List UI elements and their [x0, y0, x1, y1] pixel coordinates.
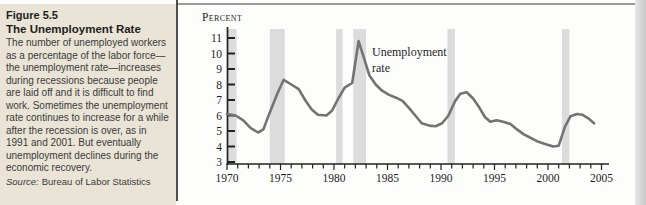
recession-band	[562, 29, 569, 164]
recession-band	[353, 29, 366, 164]
figure-title: The Unemployment Rate	[6, 22, 169, 36]
series-annotation: Unemployment	[372, 45, 447, 59]
figure-number: Figure 5.5	[6, 9, 169, 22]
figure-5-5: Figure 5.5 The Unemployment Rate The num…	[0, 0, 646, 205]
x-tick-label: 1995	[483, 172, 506, 184]
source-text: Bureau of Labor Statistics	[42, 176, 151, 187]
series-annotation: rate	[372, 61, 390, 75]
y-tick-label: 10	[211, 48, 223, 60]
recession-band	[447, 29, 454, 164]
y-tick-label: 9	[216, 63, 222, 75]
x-tick-label: 1985	[376, 172, 399, 184]
x-tick-label: 1990	[430, 172, 453, 184]
source-label: Source:	[6, 176, 39, 187]
y-axis-title: Percent	[202, 11, 242, 23]
recession-band	[227, 29, 237, 164]
x-tick-label: 1975	[269, 172, 292, 184]
y-tick-label: 3	[216, 156, 222, 168]
figure-description: The number of unemployed workers as a pe…	[6, 37, 169, 175]
unemployment-line-chart: 3456789101119701975198019851990199520002…	[176, 0, 646, 205]
x-tick-label: 2000	[537, 172, 560, 184]
y-tick-label: 11	[211, 32, 222, 44]
y-tick-label: 8	[216, 79, 222, 91]
chart-area: 3456789101119701975198019851990199520002…	[176, 0, 646, 205]
figure-source: Source:Bureau of Labor Statistics	[6, 176, 169, 188]
y-tick-label: 4	[216, 141, 222, 153]
caption-panel: Figure 5.5 The Unemployment Rate The num…	[0, 4, 176, 205]
page-edge-shading	[635, 0, 646, 205]
y-tick-label: 5	[216, 125, 222, 137]
y-tick-label: 7	[216, 94, 222, 106]
x-tick-label: 1980	[323, 172, 346, 184]
x-tick-label: 2005	[590, 172, 613, 184]
x-tick-label: 1970	[216, 172, 239, 184]
y-tick-label: 6	[216, 110, 222, 122]
